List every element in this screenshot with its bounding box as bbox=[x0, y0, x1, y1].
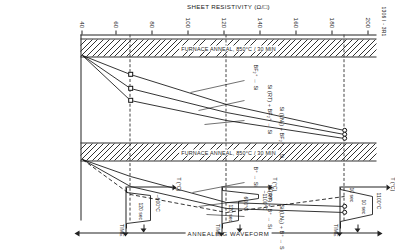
inset-second-label: 600°C bbox=[242, 196, 248, 210]
y-tick bbox=[223, 30, 224, 34]
inset-plateau-label: ~600°C bbox=[154, 194, 160, 211]
y-tick bbox=[331, 30, 332, 34]
y-tick bbox=[151, 30, 152, 34]
y-tick-label-80: 80 bbox=[149, 21, 156, 28]
y-tick-label-200: 200 bbox=[365, 17, 372, 28]
curve-bf2-plain bbox=[82, 55, 344, 130]
data-point bbox=[341, 135, 346, 140]
curve-bf2-ln2 bbox=[82, 55, 344, 138]
y-tick bbox=[187, 30, 188, 34]
leader-bf2-plain bbox=[190, 80, 244, 92]
figure-canvas: 1306 I - 3R1 200 180 160 140 120 100 80 … bbox=[0, 0, 392, 239]
inset-waveform-1100-600-120sec: T (°C) TIME ~1100°C 600°C 120 sec 10 sec bbox=[212, 176, 272, 234]
curve-label-bf2-rt: Si (RT) + BF₂⁺ → Si bbox=[266, 84, 272, 134]
data-point bbox=[127, 97, 132, 102]
y-axis-title: SHEET RESISTIVITY (Ω/□) bbox=[187, 3, 270, 10]
y-tick bbox=[367, 30, 368, 34]
curve-label-b-ln2: Si (LN₂) + B⁺ → Si bbox=[278, 204, 284, 250]
inset-duration-label: 10 sec bbox=[360, 199, 366, 214]
data-point bbox=[127, 71, 132, 76]
inset-plateau-label: 1100°C bbox=[375, 192, 381, 209]
inset-plateau-label: ~1100°C bbox=[261, 190, 267, 210]
leader-bf2-rt bbox=[198, 100, 244, 110]
y-tick-label-180: 180 bbox=[329, 17, 336, 28]
y-tick-label-140: 140 bbox=[257, 17, 264, 28]
inset-waveform-600-120sec: T (°C) TIME ~600°C 120 sec bbox=[116, 176, 176, 234]
y-tick bbox=[115, 30, 116, 34]
y-tick bbox=[295, 30, 296, 34]
inset-ramp-label: 10 sec bbox=[348, 187, 354, 202]
inset-ramp-label: 10 sec bbox=[267, 186, 273, 201]
inset-waveform-1100-10sec: T (°C) TIME 1100°C 10 sec 10 sec bbox=[330, 176, 390, 234]
y-tick bbox=[81, 30, 82, 34]
y-tick-label-40: 40 bbox=[79, 21, 86, 28]
y-tick-label-120: 120 bbox=[221, 17, 228, 28]
waveform-axis-arrow-down bbox=[74, 230, 79, 236]
y-tick-label-60: 60 bbox=[113, 21, 120, 28]
curve-label-bf2-ln2: Si (LN₂) + BF₂⁺ → Si bbox=[278, 106, 284, 158]
inset-duration-label: 120 sec bbox=[227, 204, 233, 222]
inset-waveform-trace bbox=[116, 176, 176, 234]
curve-label-bf2-plain: BF₂⁺ → Si bbox=[252, 64, 258, 90]
y-tick-label-100: 100 bbox=[185, 17, 192, 28]
y-tick bbox=[259, 30, 260, 34]
y-tick-label-160: 160 bbox=[293, 17, 300, 28]
figure-root: 1306 I - 3R1 200 180 160 140 120 100 80 … bbox=[0, 0, 392, 239]
inset-duration-label: 120 sec bbox=[137, 202, 143, 220]
data-point bbox=[127, 85, 132, 90]
figure-corner-note: 1306 I - 3R1 bbox=[380, 6, 386, 36]
